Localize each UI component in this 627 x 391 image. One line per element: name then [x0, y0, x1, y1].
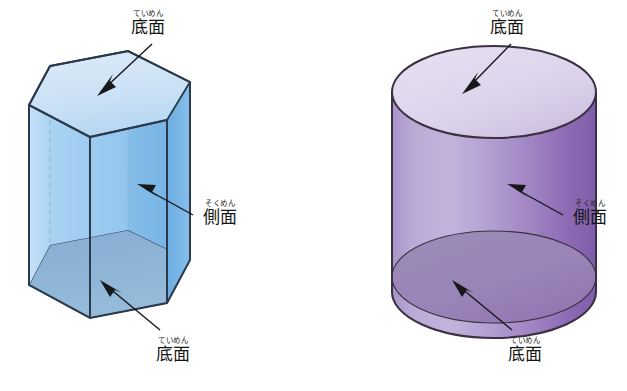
- prism-bottom-base-label: ていめん 底面: [143, 337, 203, 363]
- prism-lateral-label: そくめん 側面: [190, 200, 250, 226]
- prism-top-base-text: 底面: [118, 19, 178, 36]
- prism-lateral-text: 側面: [190, 209, 250, 226]
- prism-bottom-base-text: 底面: [143, 346, 203, 363]
- figure-canvas: [0, 0, 627, 391]
- cylinder-bottom-base-text: 底面: [495, 346, 555, 363]
- cylinder-top-base-text: 底面: [477, 19, 537, 36]
- cylinder-bottom-base-face: [392, 231, 596, 323]
- cylinder-top-base-label: ていめん 底面: [477, 10, 537, 36]
- cylinder-top-base-face: [392, 46, 596, 138]
- prism-top-base-label: ていめん 底面: [118, 10, 178, 36]
- cylinder-lateral-text: 側面: [560, 209, 620, 226]
- cylinder-lateral-label: そくめん 側面: [560, 200, 620, 226]
- hexagonal-prism-figure: [29, 44, 193, 330]
- cylinder-figure: [392, 44, 596, 338]
- cylinder-bottom-base-label: ていめん 底面: [495, 337, 555, 363]
